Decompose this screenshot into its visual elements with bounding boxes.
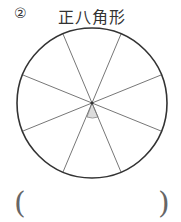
answer-open-paren: ( (14, 185, 26, 220)
answer-field[interactable] (35, 190, 150, 218)
answer-close-paren: ) (158, 185, 170, 220)
octagon-circle-figure (0, 0, 181, 222)
center-point (91, 102, 94, 105)
